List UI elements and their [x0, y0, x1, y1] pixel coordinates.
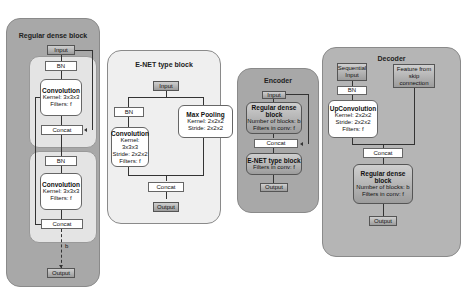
arrow-head [84, 128, 87, 132]
dense-blocks: Number of blocks: b [356, 184, 409, 191]
connector [308, 94, 309, 144]
dense-filters: Filters in conv: f [362, 191, 404, 198]
enet-filters: Filters in conv: f [253, 164, 295, 171]
connector [61, 229, 63, 268]
conv-filters: Filters: f [50, 195, 71, 202]
enet-block-node: E-NET type block Filters in conv: f [246, 153, 302, 175]
arrow-head [59, 265, 63, 268]
connector [128, 97, 129, 107]
conv-title: Convolution [42, 87, 80, 94]
convolution-node: Convolution Kernel: 3x3x3 Filters: f [40, 173, 82, 210]
connector [203, 138, 204, 175]
dense-title: Regular dense block [354, 170, 412, 184]
connector [286, 94, 308, 95]
convolution-node: Convolution Kernel: 3x3x3 Stride: 2x2x2 … [111, 127, 149, 167]
output-node: Output [47, 268, 75, 278]
bn-node: BN [45, 61, 77, 71]
conv-filters: Filters: f [119, 158, 140, 165]
connector [35, 97, 36, 225]
pool-kernel: Kernel: 2x2x2 [187, 118, 224, 125]
connector [128, 167, 129, 175]
upconv-stride: Stride: 2x2x2 [335, 119, 370, 126]
input-node: Input [262, 91, 286, 99]
sequential-input-node: Sequential Input [337, 63, 367, 81]
connector [75, 50, 93, 51]
connector [203, 97, 204, 105]
pool-title: Max Pooling [186, 111, 224, 118]
connector [61, 71, 62, 79]
dense-title: Regular dense block [247, 104, 301, 118]
concat-node: Concat [363, 148, 403, 158]
decoder-panel: Decoder Sequential Input Feature from sk… [322, 47, 461, 257]
upconv-filters: Filters: f [342, 126, 363, 133]
skip-connection-label: Feature from skip connection [394, 66, 434, 87]
connector [414, 88, 415, 144]
regular-dense-block-panel: Regular dense block Input BN Convolution… [6, 18, 100, 287]
bn-node: BN [114, 107, 144, 117]
upconvolution-node: UpConvolution Kernel: 2x2x2 Stride: 2x2x… [328, 100, 378, 138]
repeat-count-label: b [65, 243, 68, 249]
skip-connection-node: Feature from skip connection [393, 64, 435, 88]
sequential-input-label: Sequential Input [338, 65, 366, 79]
connector [61, 55, 62, 61]
conv-stride: Stride: 2x2x2 [112, 151, 147, 158]
connector [128, 97, 204, 98]
connector [128, 117, 129, 127]
concat-node: Concat [41, 219, 83, 229]
connector [92, 50, 93, 130]
concat-node: Concat [254, 139, 298, 148]
connector [61, 135, 62, 156]
conv-title: Convolution [42, 181, 80, 188]
upconv-title: UpConvolution [330, 105, 377, 112]
concat-node: Concat [148, 182, 184, 192]
panel-title: Encoder [238, 77, 318, 84]
panel-title: E-NET type block [108, 61, 220, 68]
conv-filters: Filters: f [50, 101, 71, 108]
output-node: Output [153, 202, 179, 212]
concat-node: Concat [41, 125, 83, 135]
convolution-node: Convolution Kernel: 3x3x3 Filters: f [40, 79, 82, 116]
conv-kernel: Kernel: 3x3x3 [43, 94, 80, 101]
connector [166, 175, 167, 181]
regular-dense-block-node: Regular dense block Number of blocks: b … [353, 164, 413, 204]
connector [273, 134, 274, 138]
connector [166, 192, 167, 199]
dense-blocks: Number of blocks: b [247, 118, 300, 125]
upconv-kernel: Kernel: 2x2x2 [335, 112, 372, 119]
output-node: Output [260, 183, 288, 192]
panel-title: Regular dense block [7, 32, 99, 39]
connector [61, 116, 62, 125]
input-node: Input [153, 81, 179, 91]
conv-kernel: Kernel: 3x3x3 [43, 188, 80, 195]
enet-block-panel: E-NET type block Input BN Convolution Ke… [107, 50, 221, 224]
panel-title: Decoder [323, 55, 460, 62]
input-node: Input [47, 45, 75, 55]
max-pooling-node: Max Pooling Kernel: 2x2x2 Stride: 2x2x2 [178, 105, 233, 138]
dense-filters: Filters in conv: f [253, 125, 295, 132]
regular-dense-block-node: Regular dense block Number of blocks: b … [246, 102, 302, 134]
arrow-head [300, 142, 303, 146]
connector [61, 210, 62, 219]
connector [61, 166, 62, 173]
pool-stride: Stride: 2x2x2 [188, 125, 223, 132]
output-node: Output [369, 216, 397, 226]
connector [383, 204, 384, 216]
enet-title: E-NET type block [247, 157, 300, 164]
bn-node: BN [337, 86, 367, 95]
encoder-panel: Encoder Input Regular dense block Number… [237, 68, 319, 213]
conv-title: Convolution [111, 130, 149, 137]
conv-kernel: Kernel: 3x3x3 [112, 137, 148, 151]
bn-node: BN [45, 156, 77, 166]
connector [273, 175, 274, 183]
connector [35, 224, 41, 225]
